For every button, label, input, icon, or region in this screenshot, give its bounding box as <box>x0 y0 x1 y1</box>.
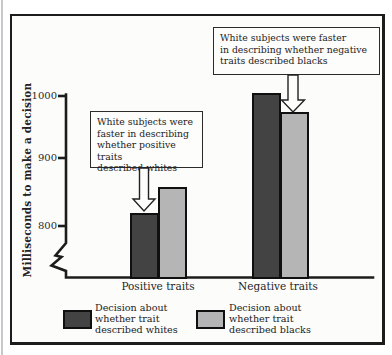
tick-label-900: 900 <box>25 152 57 164</box>
callout-positive-traits: White subjects were faster in describing… <box>90 111 203 168</box>
tick-label-1000: 1000 <box>25 90 57 102</box>
category-label-negative: Negative traits <box>218 280 338 292</box>
legend-swatch-whites <box>63 310 92 329</box>
legend-label-blacks: Decision about whether trait described b… <box>229 302 311 335</box>
callout-negative-traits: White subjects were faster in describing… <box>213 27 380 75</box>
legend-label-whites: Decision about whether trait described w… <box>95 302 178 335</box>
bar-positive-whites <box>130 213 159 279</box>
scan-edge-artifact <box>1 0 3 355</box>
legend-swatch-blacks <box>196 310 225 329</box>
figure-panel: Milliseconds to make a decision 1000 900… <box>0 0 392 355</box>
category-label-positive: Positive traits <box>98 280 218 292</box>
bar-negative-whites <box>252 93 281 279</box>
tick-label-800: 800 <box>25 220 57 232</box>
y-axis-title: Milliseconds to make a decision <box>21 83 33 278</box>
bar-negative-blacks <box>280 112 309 279</box>
bar-positive-blacks <box>158 187 187 279</box>
